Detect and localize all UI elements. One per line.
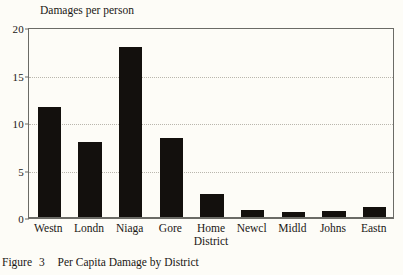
y-tick-mark: [25, 124, 29, 125]
x-tick-label-line: Home: [197, 222, 225, 234]
x-tick-label-line: Niaga: [116, 222, 143, 234]
bar: [160, 138, 184, 218]
bar: [38, 107, 62, 218]
y-tick-label: 20: [13, 23, 24, 35]
x-tick-label: HomeDistrict: [191, 222, 232, 248]
caption-number: 3: [39, 256, 45, 268]
figure-container: Damages per person 05101520 WestnLondnNi…: [0, 0, 403, 275]
y-tick-label: 0: [18, 213, 24, 225]
y-tick-mark: [25, 171, 29, 172]
x-tick-label: Niaga: [109, 222, 150, 235]
x-tick-label: Westn: [28, 222, 69, 235]
x-tick-label-line: Johns: [320, 222, 346, 234]
x-tick-label-line: Eastn: [361, 222, 387, 234]
x-tick-label: Johns: [313, 222, 354, 235]
x-axis-line: [28, 217, 394, 219]
x-tick-label-line: Midld: [278, 222, 306, 234]
x-tick-label-line: Newcl: [237, 222, 267, 234]
bar: [78, 142, 102, 218]
gridline: [29, 77, 393, 78]
caption-prefix: Figure: [2, 256, 32, 268]
x-tick-label: Newcl: [231, 222, 272, 235]
figure-caption: Figure 3 Per Capita Damage by District: [2, 256, 199, 268]
bar: [119, 47, 143, 218]
x-tick-label: Midld: [272, 222, 313, 235]
x-tick-label: Londn: [69, 222, 110, 235]
x-tick-label: Gore: [150, 222, 191, 235]
y-tick-mark: [25, 29, 29, 30]
x-tick-label-line: Londn: [74, 222, 104, 234]
axis-title: Damages per person: [40, 4, 134, 16]
y-tick-label: 5: [18, 166, 24, 178]
x-tick-label-line: District: [191, 235, 232, 248]
x-tick-label-line: Gore: [159, 222, 182, 234]
x-tick-label: Eastn: [353, 222, 394, 235]
x-tick-label-line: Westn: [34, 222, 62, 234]
y-tick-label: 15: [13, 71, 24, 83]
plot-area: 05101520: [28, 28, 394, 218]
y-tick-label: 10: [13, 118, 24, 130]
caption-text: Per Capita Damage by District: [58, 256, 199, 268]
bar: [200, 194, 224, 218]
y-tick-mark: [25, 76, 29, 77]
gridline: [29, 124, 393, 125]
y-tick-mark: [25, 219, 29, 220]
